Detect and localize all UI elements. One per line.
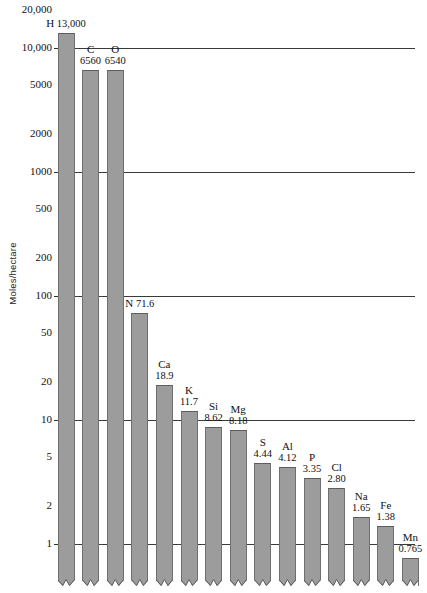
y-tick-label: 5000 bbox=[0, 79, 52, 90]
bar-label-line1: Cl bbox=[313, 462, 361, 473]
bar-symbol: O bbox=[111, 43, 119, 55]
bar-label-line2: 6540 bbox=[91, 55, 139, 66]
y-tick-label: 50 bbox=[0, 327, 52, 338]
bar-symbol: H bbox=[46, 17, 54, 29]
bar-h bbox=[58, 33, 75, 586]
bar-label-mn: Mn0.765 bbox=[386, 532, 427, 554]
y-tick-label: 200 bbox=[0, 252, 52, 263]
bar-k bbox=[181, 411, 198, 586]
bar-label-mg: Mg8.18 bbox=[214, 404, 262, 426]
bar-value: 8.18 bbox=[229, 415, 247, 426]
bar-label-line1: K bbox=[165, 385, 213, 396]
bar-label-line1: Ca bbox=[140, 359, 188, 370]
bar-label-h: H 13,000 bbox=[26, 18, 106, 29]
bar-label-line2: 18.9 bbox=[140, 370, 188, 381]
bar-o bbox=[107, 70, 124, 586]
bar-si bbox=[205, 427, 222, 586]
bar-label-ca: Ca18.9 bbox=[140, 359, 188, 381]
bar-symbol: Ca bbox=[158, 358, 170, 370]
y-tick-label: 1000 bbox=[0, 166, 52, 177]
bar-symbol: Fe bbox=[380, 499, 391, 511]
y-tick-label: 10,000 bbox=[0, 42, 52, 53]
y-tick-label: 20,000 bbox=[0, 4, 52, 15]
y-tick-label: 500 bbox=[0, 203, 52, 214]
bar-value: 13,000 bbox=[57, 18, 86, 29]
bar-c bbox=[82, 70, 99, 586]
bar-value: 6540 bbox=[105, 55, 126, 66]
bar-label-line1: Mn bbox=[386, 532, 427, 543]
bar-label-o: O6540 bbox=[91, 44, 139, 66]
bar-symbol: N bbox=[125, 297, 133, 309]
bar-symbol: Al bbox=[282, 440, 293, 452]
bar-value: 0.765 bbox=[399, 543, 423, 554]
bar-mn bbox=[402, 558, 419, 586]
bar-label-line1: O bbox=[91, 44, 139, 55]
bar-symbol: Mn bbox=[403, 531, 418, 543]
bar-symbol: Cl bbox=[331, 461, 341, 473]
bar-label-line2: 1.38 bbox=[362, 511, 410, 522]
y-tick-label: 10 bbox=[0, 414, 52, 425]
bar-label-line1: Al bbox=[263, 441, 311, 452]
bar-symbol: K bbox=[185, 384, 193, 396]
bar-label-n: N 71.6 bbox=[100, 298, 180, 309]
bar-label-cl: Cl2.80 bbox=[313, 462, 361, 484]
bar-ca bbox=[156, 385, 173, 586]
bar-label-line2: 2.80 bbox=[313, 473, 361, 484]
y-axis-title: Moles/hectare bbox=[7, 224, 18, 324]
bar-value: 71.6 bbox=[136, 298, 154, 309]
bar-label-line2: 8.18 bbox=[214, 415, 262, 426]
bar-al bbox=[279, 467, 296, 586]
y-tick-label: 1 bbox=[0, 538, 52, 549]
y-tick-label: 20 bbox=[0, 376, 52, 387]
bar-label-line2: 0.765 bbox=[386, 543, 427, 554]
bar-s bbox=[254, 463, 271, 586]
y-tick-label: 5 bbox=[0, 451, 52, 462]
bar-label-line1: Fe bbox=[362, 500, 410, 511]
y-tick-label: 100 bbox=[0, 290, 52, 301]
y-tick-label: 2 bbox=[0, 500, 52, 511]
bar-symbol: Mg bbox=[231, 403, 246, 415]
bar-value: 18.9 bbox=[155, 370, 173, 381]
bar-label-line1: Mg bbox=[214, 404, 262, 415]
bar-n bbox=[131, 313, 148, 586]
y-tick-label: 2000 bbox=[0, 128, 52, 139]
bar-value: 2.80 bbox=[327, 473, 345, 484]
bar-label-fe: Fe1.38 bbox=[362, 500, 410, 522]
bar-p bbox=[304, 478, 321, 586]
bar-na bbox=[353, 517, 370, 586]
bar-value: 1.38 bbox=[377, 511, 395, 522]
